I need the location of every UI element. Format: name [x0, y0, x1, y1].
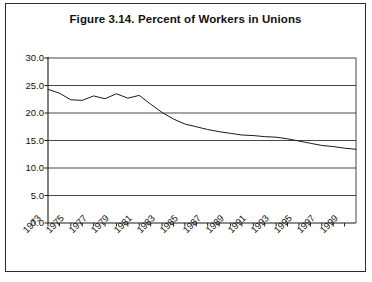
x-tick-label-1983: 1983	[135, 213, 157, 235]
x-tick-label-1985: 1985	[158, 213, 180, 235]
x-tick-label-1989: 1989	[204, 213, 226, 235]
x-tick-label-1995: 1995	[272, 213, 294, 235]
x-tick-label-1999: 1999	[318, 213, 340, 235]
x-tick-label-1981: 1981	[112, 213, 134, 235]
line-chart: 0.05.010.015.020.025.030.0 1973197519771…	[6, 4, 366, 272]
x-tick-label-1993: 1993	[249, 213, 271, 235]
x-tick-label-1977: 1977	[67, 213, 89, 235]
figure-frame: Figure 3.14. Percent of Workers in Union…	[5, 3, 366, 272]
x-tick-label-1973: 1973	[21, 213, 43, 235]
x-tick-label-1987: 1987	[181, 213, 203, 235]
x-tick-label-1975: 1975	[44, 213, 66, 235]
x-tick-label-1997: 1997	[295, 213, 317, 235]
x-tick-label-1991: 1991	[226, 213, 248, 235]
x-tick-label-1979: 1979	[89, 213, 111, 235]
x-axis-tick-labels: 1973197519771979198119831985198719891991…	[6, 4, 366, 272]
